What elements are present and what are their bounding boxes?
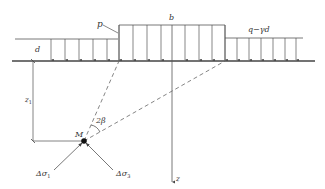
label-delta-sigma1: Δσ1 bbox=[35, 169, 50, 179]
stress-diagram: p b q−γd d z1 z M 2β Δσ1 Δσ3 bbox=[0, 0, 325, 189]
dashed-line-right-edge bbox=[84, 61, 225, 141]
label-d: d bbox=[35, 45, 40, 54]
right-surcharge-strip bbox=[225, 38, 303, 60]
delta-sigma1-arrow bbox=[54, 143, 82, 170]
label-z1: z1 bbox=[24, 96, 32, 105]
dashed-line-left-edge bbox=[84, 61, 119, 141]
angle-arc bbox=[91, 125, 100, 132]
left-surcharge-strip bbox=[15, 39, 118, 60]
point-m bbox=[81, 138, 87, 144]
p-leader-line bbox=[103, 25, 118, 33]
label-b: b bbox=[169, 13, 174, 22]
label-two-beta: 2β bbox=[95, 116, 106, 125]
label-delta-sigma3: Δσ3 bbox=[115, 169, 130, 179]
label-z-axis: z bbox=[175, 175, 180, 183]
label-p: p bbox=[97, 19, 103, 29]
delta-sigma3-arrow bbox=[86, 143, 113, 170]
label-m: M bbox=[74, 130, 84, 139]
label-q-minus-gamma-d: q−γd bbox=[248, 25, 270, 34]
